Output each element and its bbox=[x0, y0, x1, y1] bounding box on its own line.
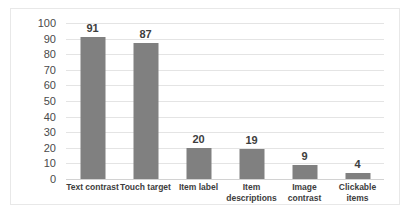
y-axis-tick-label: 70 bbox=[44, 64, 56, 75]
bar-value-label: 19 bbox=[245, 135, 257, 146]
x-axis-tick-label: Clickable items bbox=[331, 182, 384, 203]
bar-group: 19 bbox=[225, 23, 278, 179]
bar-group: 20 bbox=[172, 23, 225, 179]
bar-value-label: 91 bbox=[86, 23, 98, 34]
bar-group: 91 bbox=[66, 23, 119, 179]
x-axis-tick-label: Item descriptions bbox=[225, 182, 278, 203]
y-axis-tick-label: 100 bbox=[38, 18, 56, 29]
bar bbox=[292, 165, 317, 179]
bar-group: 4 bbox=[331, 23, 384, 179]
y-axis: 1009080706050403020100 bbox=[11, 23, 61, 179]
y-axis-tick-label: 50 bbox=[44, 96, 56, 107]
chart-frame: 1009080706050403020100 9187201994 Text c… bbox=[10, 8, 400, 205]
y-axis-tick-label: 80 bbox=[44, 49, 56, 60]
x-axis-tick-label: Touch target bbox=[119, 182, 172, 193]
x-axis-tick-label: Item label bbox=[172, 182, 225, 193]
bar bbox=[186, 148, 211, 179]
x-axis: Text contrastTouch targetItem labelItem … bbox=[66, 182, 384, 206]
y-axis-tick-label: 10 bbox=[44, 158, 56, 169]
y-axis-tick-label: 40 bbox=[44, 111, 56, 122]
bar-value-label: 9 bbox=[301, 151, 307, 162]
bar-group: 9 bbox=[278, 23, 331, 179]
bar-group: 87 bbox=[119, 23, 172, 179]
bar-value-label: 20 bbox=[192, 134, 204, 145]
bar-value-label: 4 bbox=[354, 159, 360, 170]
axis-baseline bbox=[66, 179, 384, 180]
bar bbox=[239, 149, 264, 179]
bar bbox=[133, 43, 158, 179]
bar-value-label: 87 bbox=[139, 29, 151, 40]
y-axis-tick-label: 30 bbox=[44, 127, 56, 138]
plot-area: 9187201994 bbox=[66, 23, 384, 179]
y-axis-tick-label: 60 bbox=[44, 80, 56, 91]
x-axis-tick-label: Text contrast bbox=[66, 182, 119, 193]
y-axis-tick-label: 90 bbox=[44, 33, 56, 44]
y-axis-tick-label: 0 bbox=[50, 174, 56, 185]
bar bbox=[345, 173, 370, 179]
y-axis-tick-label: 20 bbox=[44, 142, 56, 153]
x-axis-tick-label: Image contrast bbox=[278, 182, 331, 203]
bar bbox=[80, 37, 105, 179]
